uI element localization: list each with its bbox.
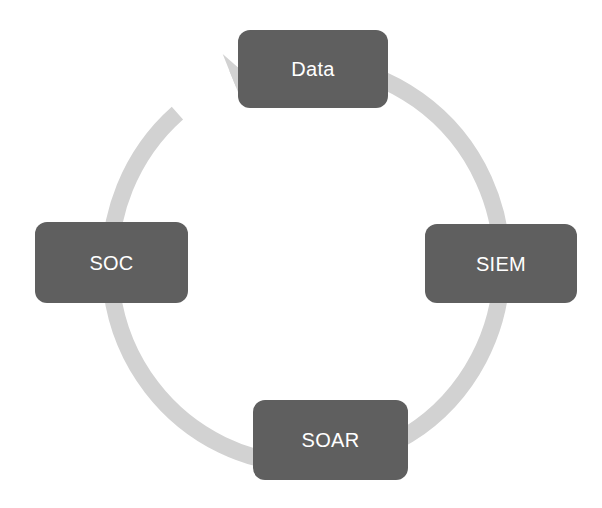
cycle-node-data[interactable]: Data — [238, 30, 388, 108]
cycle-node-soc[interactable]: SOC — [35, 222, 188, 303]
cycle-diagram: Data SIEM SOAR SOC — [0, 0, 602, 508]
cycle-node-soar[interactable]: SOAR — [253, 400, 408, 480]
cycle-node-siem-label: SIEM — [476, 254, 526, 274]
cycle-node-soar-label: SOAR — [302, 430, 360, 450]
cycle-node-data-label: Data — [291, 59, 334, 79]
cycle-node-soc-label: SOC — [89, 253, 133, 273]
cycle-node-siem[interactable]: SIEM — [425, 224, 577, 303]
